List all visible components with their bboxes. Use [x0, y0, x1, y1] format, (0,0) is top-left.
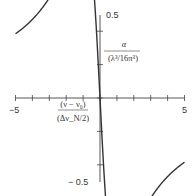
- y-tick-label-min: − 0.5: [68, 177, 88, 187]
- x-tick-label-max: 5: [182, 105, 187, 115]
- y-tick-label-max: 0.5: [106, 10, 119, 20]
- x-tick-label-min: −5: [9, 105, 19, 115]
- y-axis-label: α (λ³/16π³): [104, 39, 140, 63]
- y-label-numerator: α: [122, 39, 127, 49]
- x-label-denominator: (Δν_N/2): [57, 113, 89, 123]
- chart: −5 5 0.5 − 0.5 α (λ³/16π³) (ν − ν₀) (Δν_…: [0, 0, 194, 196]
- x-axis-label: (ν − ν₀) (Δν_N/2): [57, 99, 89, 123]
- y-label-denominator: (λ³/16π³): [108, 53, 138, 63]
- x-label-numerator: (ν − ν₀): [60, 99, 86, 109]
